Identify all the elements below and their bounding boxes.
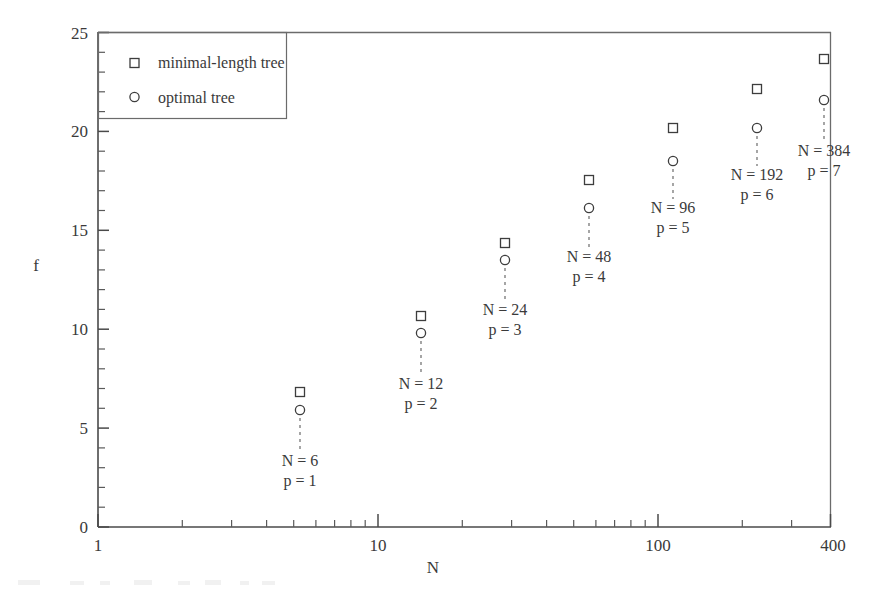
annotation-n-n6: N = 6: [282, 452, 319, 469]
marker-circle-n6: [295, 405, 304, 414]
annotation-n-n192: N = 192: [731, 166, 784, 183]
marker-circle-n48: [584, 203, 593, 212]
x-axis-title: N: [427, 558, 439, 577]
data-group-n192: N = 192 p = 6: [731, 85, 784, 205]
annotation-p-n24: p = 3: [488, 321, 521, 339]
annotation-n-n384: N = 384: [798, 142, 851, 159]
x-axis-ticks: [98, 514, 831, 527]
y-tick-label-10: 10: [71, 320, 88, 339]
legend-label-optimal-tree: optimal tree: [158, 89, 235, 107]
annotation-n-n48: N = 48: [567, 248, 612, 265]
annotation-n-n24: N = 24: [483, 301, 528, 318]
x-tick-label-1: 1: [94, 536, 103, 555]
marker-circle-n192: [752, 123, 761, 132]
annotation-p-n12: p = 2: [404, 395, 437, 413]
annotation-n-n96: N = 96: [651, 199, 696, 216]
data-group-n48: N = 48 p = 4: [567, 176, 612, 287]
annotation-p-n96: p = 5: [656, 219, 689, 237]
legend: minimal-length tree optimal tree: [99, 33, 287, 119]
y-tick-label-20: 20: [71, 122, 88, 141]
data-group-n384: N = 384 p = 7: [798, 55, 851, 181]
annotation-p-n192: p = 6: [740, 186, 773, 204]
legend-marker-circle: [130, 92, 139, 101]
y-tick-label-5: 5: [80, 419, 89, 438]
y-axis-title: f: [33, 256, 39, 275]
figure-container: 0 5 10 15 20 25 f: [0, 0, 879, 594]
x-tick-label-400: 400: [820, 536, 846, 555]
marker-square-n6: [296, 388, 305, 397]
annotation-p-n48: p = 4: [572, 268, 605, 286]
marker-square-n192: [753, 85, 762, 94]
marker-circle-n24: [500, 255, 509, 264]
x-axis-tick-labels: 1 10 100 400: [94, 536, 846, 555]
data-group-n12: N = 12 p = 2: [399, 312, 444, 414]
y-tick-label-25: 25: [71, 24, 88, 43]
legend-label-minimal-length-tree: minimal-length tree: [158, 54, 285, 72]
data-group-n24: N = 24 p = 3: [483, 239, 528, 340]
annotation-n-n12: N = 12: [399, 375, 444, 392]
annotation-p-n6: p = 1: [283, 472, 316, 490]
marker-circle-n96: [668, 156, 677, 165]
y-tick-label-15: 15: [71, 221, 88, 240]
x-tick-label-100: 100: [645, 536, 671, 555]
annotation-p-n384: p = 7: [807, 162, 840, 180]
marker-square-n24: [501, 239, 510, 248]
y-tick-label-0: 0: [80, 518, 89, 537]
legend-marker-square: [130, 59, 139, 68]
marker-circle-n384: [819, 95, 828, 104]
marker-square-n384: [820, 55, 829, 64]
marker-circle-n12: [416, 328, 425, 337]
marker-square-n12: [417, 312, 426, 321]
x-tick-label-10: 10: [370, 536, 387, 555]
y-axis-ticks: [98, 33, 109, 528]
marker-square-n96: [669, 124, 678, 133]
data-group-n6: N = 6 p = 1: [282, 388, 319, 491]
scatter-plot: 0 5 10 15 20 25 f: [0, 0, 879, 594]
y-axis-tick-labels: 0 5 10 15 20 25: [71, 24, 88, 537]
marker-square-n48: [585, 176, 594, 185]
plot-frame: [98, 32, 831, 527]
data-group-n96: N = 96 p = 5: [651, 124, 696, 238]
